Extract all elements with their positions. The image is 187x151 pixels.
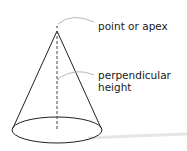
cone-base-ellipse xyxy=(12,117,102,143)
perpendicular-height-label: perpendicular height xyxy=(98,69,171,93)
apex-point xyxy=(56,26,58,28)
height-label-line1: perpendicular xyxy=(98,69,171,81)
cone-right-side xyxy=(57,31,101,128)
height-point xyxy=(57,78,59,80)
height-label-line2: height xyxy=(98,81,171,93)
apex-label-text: point or apex xyxy=(98,20,168,32)
background-smudge xyxy=(88,134,187,138)
apex-leader-line xyxy=(58,17,94,24)
apex-label: point or apex xyxy=(98,20,168,32)
cone-left-side xyxy=(13,31,57,128)
